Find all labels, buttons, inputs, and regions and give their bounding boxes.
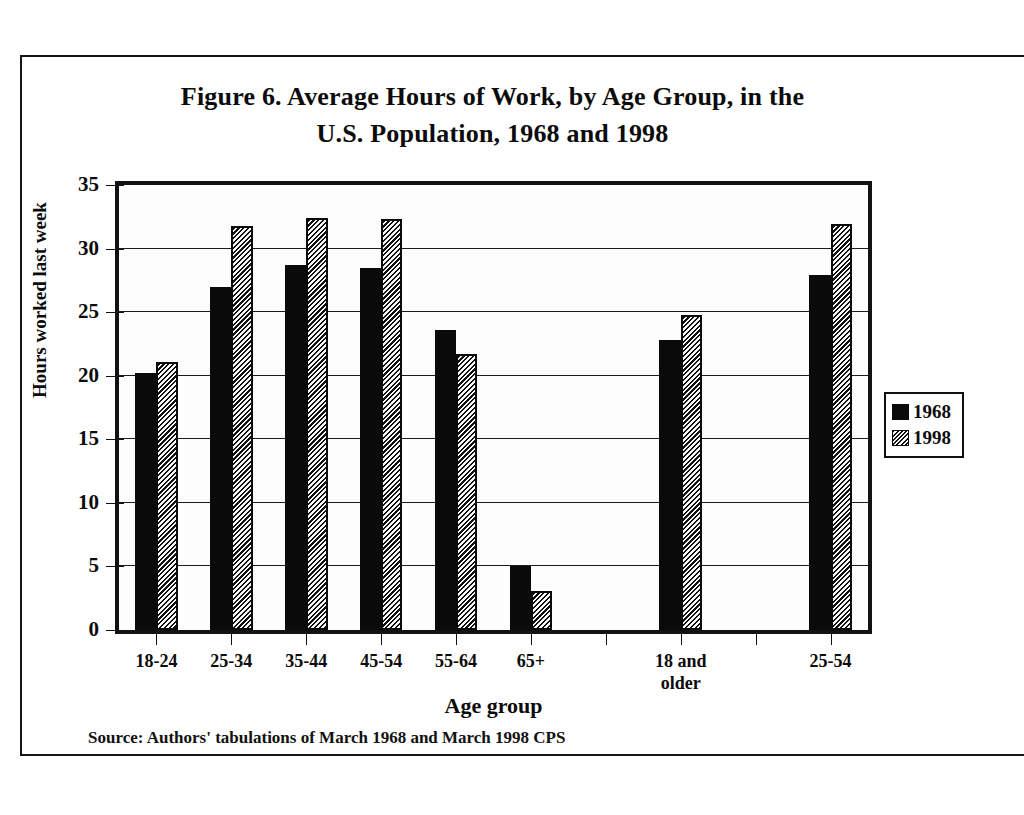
legend-label-1998: 1998 (913, 427, 951, 449)
bar-group (344, 185, 419, 630)
bar-1968-25-34 (210, 287, 231, 630)
x-tick-label-line: older (621, 672, 741, 694)
x-tick-18-and-older (681, 634, 682, 645)
x-tick-gap (606, 634, 607, 645)
x-tick-25-54 (831, 634, 832, 645)
bar-group (643, 185, 718, 630)
y-tick-label-10: 10 (59, 490, 99, 515)
y-tick-35 (106, 185, 124, 186)
bar-group (793, 185, 868, 630)
x-tick-65+ (531, 634, 532, 645)
plot-area (115, 181, 872, 634)
x-tick-label-18-and-older: 18 andolder (621, 650, 741, 694)
legend-label-1968: 1968 (913, 401, 951, 423)
bar-group (494, 185, 569, 630)
bar-1968-35-44 (285, 265, 306, 630)
x-tick-label-line: 65+ (471, 650, 591, 672)
x-tick-45-54 (381, 634, 382, 645)
bar-1998-25-34 (231, 226, 252, 630)
y-tick-label-5: 5 (59, 553, 99, 578)
y-tick-label-25: 25 (59, 299, 99, 324)
bar-1998-18-and-older (681, 315, 702, 630)
bar-1998-25-54 (831, 224, 852, 630)
y-tick-30 (106, 249, 124, 250)
bar-1968-18-and-older (659, 340, 680, 630)
x-tick-55-64 (456, 634, 457, 645)
legend-item-1998: 1998 (892, 425, 958, 451)
source-note: Source: Authors' tabulations of March 19… (88, 728, 565, 748)
bar-group (419, 185, 494, 630)
x-tick-18-24 (156, 634, 157, 645)
bar-1968-25-54 (809, 275, 830, 630)
bar-1998-18-24 (156, 362, 177, 630)
bar-1968-18-24 (135, 373, 156, 630)
bar-group (269, 185, 344, 630)
y-tick-0 (106, 630, 124, 631)
y-tick-label-20: 20 (59, 363, 99, 388)
y-tick-label-35: 35 (59, 172, 99, 197)
figure-title: Figure 6. Average Hours of Work, by Age … (20, 78, 965, 152)
bar-1968-45-54 (360, 268, 381, 630)
bar-group (194, 185, 269, 630)
x-tick-35-44 (306, 634, 307, 645)
x-tick-label-line: 18 and (621, 650, 741, 672)
figure-title-line2: U.S. Population, 1968 and 1998 (20, 115, 965, 152)
y-tick-label-30: 30 (59, 236, 99, 261)
y-tick-label-15: 15 (59, 426, 99, 451)
y-axis-title: Hours worked last week (29, 202, 51, 398)
y-tick-25 (106, 312, 124, 313)
legend-swatch-1968 (892, 404, 909, 420)
bar-1998-55-64 (456, 354, 477, 630)
legend: 1968 1998 (884, 392, 964, 458)
x-tick-label-65+: 65+ (471, 650, 591, 672)
figure-title-line1: Figure 6. Average Hours of Work, by Age … (181, 82, 804, 111)
y-tick-label-0: 0 (59, 617, 99, 642)
bar-1998-45-54 (381, 219, 402, 630)
legend-item-1968: 1968 (892, 399, 958, 425)
y-tick-10 (106, 503, 124, 504)
legend-swatch-1998 (892, 430, 909, 446)
bar-group (119, 185, 194, 630)
bar-1998-35-44 (306, 218, 327, 630)
x-tick-gap (756, 634, 757, 645)
bar-series-container (119, 185, 868, 630)
x-tick-label-line: 25-54 (771, 650, 891, 672)
y-tick-15 (106, 439, 124, 440)
bar-1998-65+ (531, 591, 552, 630)
x-axis-title: Age group (115, 693, 872, 719)
bar-1968-65+ (510, 566, 531, 630)
x-tick-25-34 (231, 634, 232, 645)
y-tick-5 (106, 566, 124, 567)
bar-1968-55-64 (435, 330, 456, 630)
y-tick-20 (106, 376, 124, 377)
x-tick-label-25-54: 25-54 (771, 650, 891, 672)
